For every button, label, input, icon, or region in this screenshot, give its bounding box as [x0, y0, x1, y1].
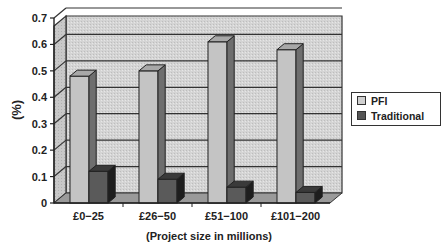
- x-axis-title: (Project size in millions): [146, 230, 272, 242]
- y-axis-title: (%): [9, 100, 24, 120]
- bar-pfi-2: [208, 36, 234, 203]
- x-tick-label: £101−200: [271, 210, 320, 222]
- bar-traditional-3: [296, 186, 322, 203]
- y-tick-label: 0.1: [32, 171, 47, 183]
- y-tick-label: 0.2: [32, 144, 47, 156]
- y-tick-label: 0.6: [32, 38, 47, 50]
- y-tick-label: 0.7: [32, 12, 47, 24]
- plot-area: [54, 8, 342, 203]
- y-tick-label: 0.5: [32, 65, 47, 77]
- legend-label-traditional: Traditional: [371, 110, 424, 122]
- legend-item-pfi: PFI: [352, 93, 440, 108]
- bar-traditional-2: [227, 181, 253, 203]
- x-tick-label: £0−25: [73, 210, 104, 222]
- legend-swatch-traditional: [357, 111, 366, 120]
- x-tick-label: £26−50: [139, 210, 176, 222]
- y-tick-label: 0.4: [32, 91, 48, 103]
- bar-pfi-3: [277, 44, 303, 203]
- bar-traditional-1: [158, 173, 184, 203]
- y-tick-label: 0: [41, 197, 47, 209]
- y-tick-label: 0.3: [32, 118, 47, 130]
- legend-swatch-pfi: [357, 96, 366, 105]
- bar-traditional-0: [89, 165, 115, 203]
- x-tick-label: £51−100: [205, 210, 248, 222]
- legend: PFI Traditional: [351, 92, 441, 126]
- legend-item-traditional: Traditional: [352, 108, 440, 123]
- legend-label-pfi: PFI: [371, 95, 387, 107]
